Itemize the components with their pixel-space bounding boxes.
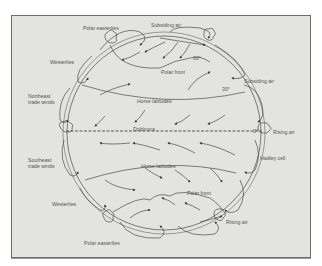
label-polar-front-bottom: Polar front [187, 190, 211, 196]
label-westerlies-bottom: Westerlies [52, 201, 76, 207]
cloud-top-left [105, 30, 117, 43]
label-hadley-cell: Hadley cell [260, 155, 285, 161]
label-lat-0: 0° [253, 128, 258, 134]
atmosphere-ring [63, 32, 265, 234]
label-lat-30: 30° [222, 86, 230, 92]
ferrel-loop-right-south [225, 180, 244, 213]
label-horse-latitudes-top: Horse latitudes [137, 98, 172, 104]
label-doldrums: Doldrums [133, 126, 155, 132]
label-rising-air-bottom: Rising air [226, 219, 248, 225]
label-horse-latitudes-bottom: Horse latitudes [141, 163, 176, 169]
label-northeast-trade-winds-2: trade winds [28, 99, 55, 105]
cloud-bottom-left [103, 210, 114, 222]
label-lat-60: 60° [193, 55, 201, 61]
polar-cell-loop-top-left [100, 30, 145, 50]
ferrel-loop-left-north [78, 56, 92, 83]
label-polar-easterlies-bottom: Polar easterlies [84, 240, 120, 246]
hadley-loop-right-south [245, 140, 259, 173]
label-westerlies-top: Westerlies [50, 59, 74, 65]
label-rising-air-right: Rising air [273, 129, 295, 135]
label-polar-easterlies-top: Polar easterlies [83, 25, 119, 31]
earth-circle [67, 36, 261, 230]
label-polar-front-top: Polar front [161, 69, 185, 75]
hadley-loop-right-north [244, 85, 263, 122]
label-subsiding-air-right: Subsiding air [244, 78, 274, 84]
label-subsiding-air-top: Subsiding air [151, 22, 181, 28]
label-southeast-trade-winds-2: trade winds [28, 163, 55, 169]
